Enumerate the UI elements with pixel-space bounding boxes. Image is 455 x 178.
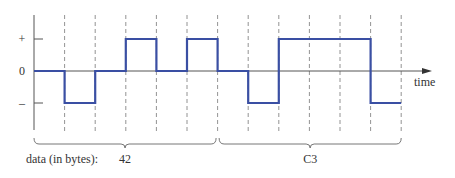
y-label-plus: + [19, 32, 26, 46]
y-label-zero: 0 [19, 64, 25, 78]
data-label: data (in bytes): [26, 152, 98, 166]
dashed-gridlines [65, 15, 402, 133]
x-axis-label: time [414, 75, 435, 89]
byte-brace [34, 138, 216, 148]
byte-brace [219, 138, 401, 148]
waveform-diagram: + 0 – time data (in bytes): 42 C3 [0, 0, 455, 178]
y-label-minus: – [18, 96, 26, 110]
axes [34, 15, 432, 130]
byte-label-c3: C3 [303, 152, 317, 166]
x-axis-arrowhead [422, 68, 432, 74]
byte-braces [34, 138, 401, 148]
byte-label-42: 42 [119, 152, 131, 166]
